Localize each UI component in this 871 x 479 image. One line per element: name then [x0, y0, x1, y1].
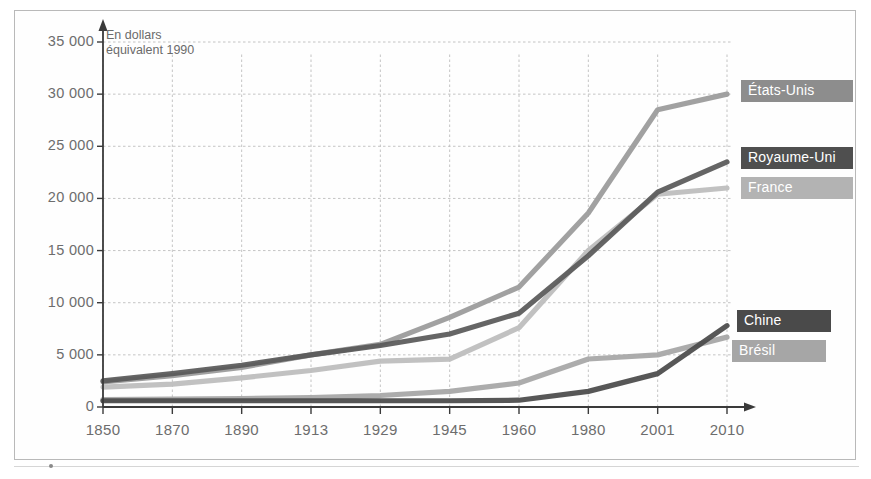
- x-axis-tick-label: 1980: [556, 421, 620, 438]
- y-axis-tick-label: 30 000: [18, 85, 94, 101]
- x-axis-tick-label: 1890: [210, 421, 274, 438]
- legend-item-br-sil[interactable]: Brésil: [732, 340, 826, 362]
- chart-page: En dollars équivalent 1990 05 00010 0001…: [0, 0, 871, 479]
- legend-item-chine[interactable]: Chine: [737, 310, 831, 332]
- line-chart-canvas: [0, 0, 871, 479]
- y-axis-tick-label: 0: [18, 398, 94, 414]
- x-axis-tick-label: 1929: [348, 421, 412, 438]
- legend-item-france[interactable]: France: [741, 177, 853, 199]
- series-line: [103, 162, 727, 381]
- page-divider: [14, 466, 859, 467]
- legend-item-royaume-uni[interactable]: Royaume-Uni: [741, 147, 853, 169]
- page-marker-dot: [49, 464, 53, 468]
- y-axis-tick-label: 10 000: [18, 294, 94, 310]
- x-axis-arrow: [744, 403, 756, 412]
- x-axis-tick-label: 1945: [418, 421, 482, 438]
- y-axis-tick-label: 35 000: [18, 33, 94, 49]
- x-axis-tick-label: 2010: [695, 421, 759, 438]
- x-axis-tick-label: 1960: [487, 421, 551, 438]
- legend-item--tats-unis[interactable]: États-Unis: [741, 80, 853, 102]
- x-axis-tick-label: 1850: [71, 421, 135, 438]
- y-axis-tick-label: 5 000: [18, 346, 94, 362]
- y-axis-tick-label: 20 000: [18, 189, 94, 205]
- x-axis-tick-label: 2001: [626, 421, 690, 438]
- series-line: [103, 326, 727, 401]
- x-axis-tick-label: 1870: [140, 421, 204, 438]
- x-axis-tick-label: 1913: [279, 421, 343, 438]
- axis-unit-note: En dollars équivalent 1990: [106, 28, 194, 58]
- y-axis-tick-label: 15 000: [18, 242, 94, 258]
- y-axis-tick-label: 25 000: [18, 137, 94, 153]
